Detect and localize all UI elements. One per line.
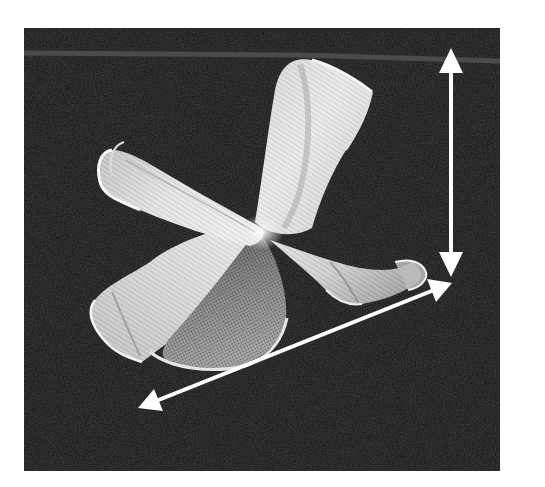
- photo-figure: [0, 0, 545, 487]
- photo-canvas: [0, 0, 545, 487]
- pinwheel-hub: [240, 214, 284, 250]
